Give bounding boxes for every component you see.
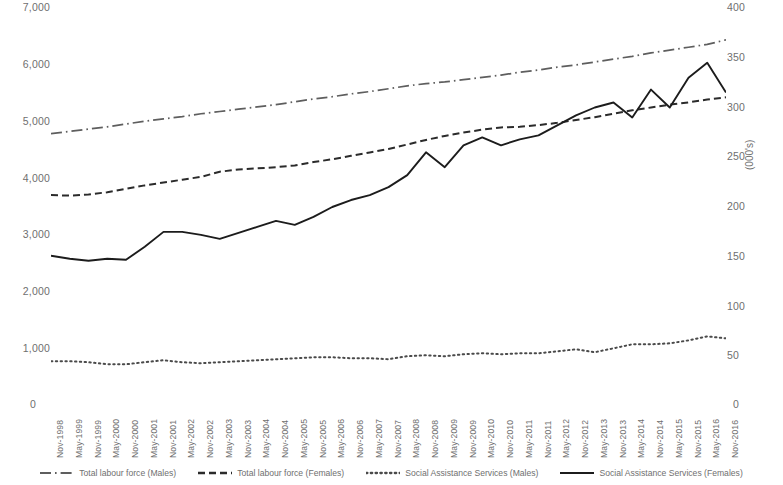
x-axis-tick: May-1999 <box>74 419 84 458</box>
y-axis-right-tick: 150 <box>727 250 767 262</box>
x-axis-tick: May-2010 <box>486 419 496 458</box>
x-axis-tick: May-2005 <box>299 419 309 458</box>
legend-item[interactable]: Social Assistance Services (Males) <box>366 468 538 478</box>
y-axis-left-tick: 6,000 <box>4 58 50 70</box>
x-axis-tick: May-2011 <box>524 420 534 458</box>
legend-item[interactable]: Total labour force (Females) <box>198 468 344 478</box>
y-axis-left-zero-label: 0 <box>30 398 36 410</box>
x-axis-tick: May-2007 <box>374 419 384 458</box>
x-axis-tick: Nov-2009 <box>468 420 478 458</box>
y-axis-left-tick: 3,000 <box>4 228 50 240</box>
x-axis-tick: May-2000 <box>111 419 121 458</box>
y-axis-right-title: (000's) <box>744 140 755 170</box>
y-axis-right-tick: 200 <box>727 200 767 212</box>
y-axis-left: 1,0002,0003,0004,0005,0006,0007,000 <box>0 0 50 410</box>
x-axis-tick: Nov-2005 <box>318 420 328 458</box>
legend-item[interactable]: Total labour force (Males) <box>40 468 176 478</box>
x-axis-tick: May-2001 <box>149 419 159 458</box>
legend-swatch-dotted-icon <box>366 468 400 478</box>
x-axis-tick: Nov-2011 <box>543 421 553 458</box>
y-axis-right-tick: 400 <box>727 1 767 13</box>
x-axis-tick: May-2013 <box>599 419 609 458</box>
x-axis-tick: May-2004 <box>261 419 271 458</box>
x-axis-tick: May-2009 <box>449 419 459 458</box>
y-axis-left-tick: 7,000 <box>4 1 50 13</box>
legend-label: Total labour force (Males) <box>79 468 176 478</box>
x-axis-tick: May-2015 <box>674 419 684 458</box>
legend-swatch-dashed-icon <box>198 468 232 478</box>
y-axis-left-tick: 1,000 <box>4 342 50 354</box>
y-axis-right-tick: 50 <box>727 349 767 361</box>
legend-label: Social Assistance Services (Males) <box>405 468 538 478</box>
x-axis-tick: Nov-2015 <box>693 420 703 458</box>
x-axis-tick: Nov-1999 <box>93 420 103 458</box>
x-axis-tick: Nov-2004 <box>280 420 290 458</box>
x-axis-tick: May-2002 <box>186 419 196 458</box>
x-axis-tick: May-2008 <box>411 419 421 458</box>
y-axis-left-tick: 2,000 <box>4 285 50 297</box>
x-axis-tick: Nov-1998 <box>55 420 65 458</box>
y-axis-right-zero-label: 0 <box>733 398 739 410</box>
x-axis-tick: May-2003 <box>224 419 234 458</box>
x-axis-tick: Nov-2016 <box>730 420 740 458</box>
x-axis-tick: Nov-2007 <box>393 420 403 458</box>
chart-legend: Total labour force (Males)Total labour f… <box>0 462 783 484</box>
legend-swatch-dash-dot-icon <box>40 468 74 478</box>
legend-item[interactable]: Social Assistance Services (Females) <box>560 468 742 478</box>
x-axis-tick: May-2014 <box>636 419 646 458</box>
y-axis-left-tick: 4,000 <box>4 172 50 184</box>
legend-label: Total labour force (Females) <box>237 468 344 478</box>
x-axis-tick: Nov-2008 <box>430 420 440 458</box>
x-axis: Nov-1998May-1999Nov-1999May-2000Nov-2000… <box>51 408 726 460</box>
x-axis-tick: Nov-2010 <box>505 420 515 458</box>
x-axis-tick: May-2012 <box>561 419 571 458</box>
x-axis-tick: Nov-2003 <box>243 420 253 458</box>
series-line-0 <box>51 40 726 134</box>
series-lines <box>51 8 726 406</box>
x-axis-tick: Nov-2000 <box>130 420 140 458</box>
y-axis-right-tick: 350 <box>727 51 767 63</box>
x-axis-tick: Nov-2014 <box>655 420 665 458</box>
x-axis-tick: May-2016 <box>711 419 721 458</box>
plot-area <box>51 8 726 406</box>
legend-swatch-solid-icon <box>560 468 594 478</box>
series-line-3 <box>51 63 726 261</box>
legend-label: Social Assistance Services (Females) <box>599 468 742 478</box>
y-axis-left-tick: 5,000 <box>4 115 50 127</box>
chart-container: 1,0002,0003,0004,0005,0006,0007,000 5010… <box>0 0 783 485</box>
x-axis-tick: May-2006 <box>336 419 346 458</box>
x-axis-tick: Nov-2006 <box>355 420 365 458</box>
y-axis-right-tick: 100 <box>727 300 767 312</box>
y-axis-right-tick: 300 <box>727 101 767 113</box>
x-axis-tick: Nov-2001 <box>168 420 178 458</box>
x-axis-tick: Nov-2013 <box>618 420 628 458</box>
x-axis-tick: Nov-2002 <box>205 420 215 458</box>
y-axis-right: 50100150200250300350400 <box>727 0 783 410</box>
x-axis-tick: Nov-2012 <box>580 420 590 458</box>
series-line-2 <box>51 336 726 364</box>
